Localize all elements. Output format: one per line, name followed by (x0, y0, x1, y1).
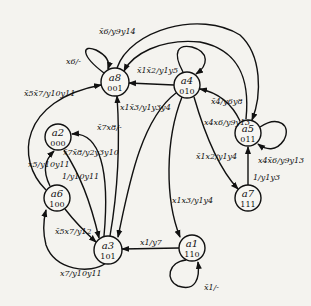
svg-text:000: 000 (50, 139, 65, 148)
label-a7-a5: 1/y1y3 (253, 173, 280, 182)
label-a3-a6: x7/y10y11 (60, 269, 102, 278)
state-a1: a1 110 (179, 235, 205, 261)
svg-text:a3: a3 (102, 240, 114, 251)
svg-text:a8: a8 (109, 72, 121, 83)
edge-a4-self (177, 46, 205, 74)
edge-a4-a8 (129, 83, 174, 85)
svg-text:111: 111 (240, 200, 255, 209)
svg-text:100: 100 (49, 200, 64, 209)
label-a5-self: x4x̄6/y9y13 (258, 156, 304, 165)
svg-text:110: 110 (184, 250, 199, 259)
edge-a1-a3 (122, 248, 179, 249)
state-a7: a7 111 (235, 185, 261, 211)
edge-a8-self (86, 48, 109, 73)
edge-a3-a8 (110, 96, 118, 236)
label-a4-a8: x̄1x̄2/y1y5 (137, 66, 178, 75)
state-a8: a8 001 (101, 68, 129, 96)
svg-text:011: 011 (240, 135, 255, 144)
label-a1-a3: x1/y7 (140, 238, 163, 247)
svg-text:a4: a4 (181, 75, 193, 86)
svg-text:001: 001 (107, 84, 122, 93)
label-a4-a1: x1x3/y1y4 (172, 196, 213, 205)
label-a6-a8: x̄5x̄7/y10y11 (24, 89, 75, 98)
svg-text:101: 101 (100, 252, 115, 261)
state-a2: a2 000 (45, 124, 71, 150)
edge-labels: x̄6/y9y14 x6/- x̄1x̄2/y1y5 x̄5x̄7/y10y11… (24, 27, 304, 292)
edge-a1-self (170, 260, 198, 287)
edge-a3-a6 (44, 210, 106, 269)
state-a3: a3 101 (94, 236, 122, 264)
label-a4-a3: x1x̄3/y1y3y4 (120, 103, 171, 112)
label-a6-a3: x̄5x7/y12 (55, 227, 92, 236)
label-a1-self: x̄1/- (204, 283, 219, 292)
edge-a5-self (258, 122, 286, 149)
label-a5-a4: x4x6/y9y13 (204, 118, 250, 127)
edge-a4-a3 (118, 93, 176, 237)
label-a4-self: x̄4/y6y8 (211, 97, 243, 106)
label-a3-a8: x̄7x8/- (97, 123, 122, 132)
state-diagram: a8 001 a4 010 a5 011 a7 111 a2 000 a6 10… (0, 0, 311, 306)
edge-a6-a3 (65, 209, 96, 242)
label-a8-self: x6/- (66, 57, 81, 66)
edge-a4-a1 (169, 97, 182, 237)
label-a4-a7: x̄1x2/y1y4 (196, 152, 237, 161)
svg-text:a1: a1 (186, 238, 198, 249)
label-a8-a5: x̄6/y9y14 (99, 27, 136, 36)
label-a2-a3: 1/y10y11 (62, 172, 99, 181)
state-a4: a4 010 (174, 72, 200, 98)
edge-a4-a7 (194, 97, 238, 189)
svg-text:a6: a6 (51, 188, 64, 199)
svg-text:a7: a7 (242, 188, 255, 199)
label-a6-a2: x5/y10y11 (28, 160, 70, 169)
svg-text:a2: a2 (52, 127, 64, 138)
state-a6: a6 100 (44, 185, 70, 211)
label-a3-a2: x̄7x̄8/y2y3y10 (63, 148, 119, 157)
svg-text:010: 010 (179, 87, 194, 96)
